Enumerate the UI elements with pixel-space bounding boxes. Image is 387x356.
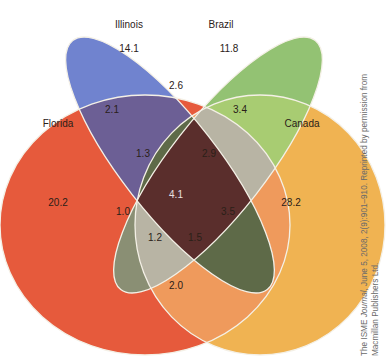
value-canada-brazil-lower: 3.5	[221, 206, 235, 217]
value-brazil-canada: 3.4	[233, 104, 247, 115]
credit-line-1: The ISME Journal, June 5, 2008, 2(9):901…	[359, 0, 370, 356]
credit-journal: Journal	[360, 290, 369, 317]
value-illinois-brazil-canada: 2.9	[202, 148, 216, 159]
credit-line-2: Macmillan Publishers Ltd.	[370, 0, 381, 356]
value-brazil-florida-canada: 1.2	[148, 232, 162, 243]
label-illinois: Illinois	[115, 19, 143, 30]
venn-diagram: Illinois Brazil Florida Canada 14.1 11.8…	[0, 0, 387, 356]
value-florida-only: 20.2	[48, 197, 68, 208]
value-illinois-brazil: 2.6	[169, 80, 183, 91]
label-brazil: Brazil	[208, 19, 233, 30]
label-florida: Florida	[43, 118, 74, 129]
value-illinois-only: 14.1	[119, 43, 139, 54]
value-illinois-florida-canada: 1.5	[188, 232, 202, 243]
label-canada: Canada	[284, 118, 319, 129]
value-illinois-florida: 2.1	[105, 104, 119, 115]
value-florida-canada: 2.0	[169, 280, 183, 291]
value-brazil-florida: 1.0	[116, 206, 130, 217]
value-brazil-only: 11.8	[220, 43, 239, 54]
credit-prefix: The ISME	[360, 317, 369, 356]
credit-rest: , June 5, 2008, 2(9):901–910. Reprinted …	[360, 74, 369, 291]
credit-line: The ISME Journal, June 5, 2008, 2(9):901…	[359, 0, 381, 356]
value-canada-only: 28.2	[281, 197, 301, 208]
value-all-four: 4.1	[169, 189, 183, 200]
value-illinois-brazil-florida: 1.3	[136, 148, 150, 159]
